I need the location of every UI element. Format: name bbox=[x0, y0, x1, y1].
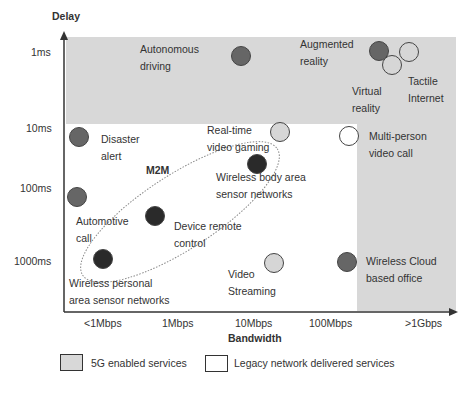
label-realtime-gaming-1: Real-time bbox=[207, 123, 252, 137]
dot-autonomous-driving bbox=[231, 46, 251, 66]
label-wban-1: Wireless body area bbox=[216, 170, 306, 184]
dot-video-streaming bbox=[264, 253, 284, 273]
y-axis-title: Delay bbox=[52, 9, 80, 23]
label-wpan-1: Wireless personal bbox=[69, 276, 152, 290]
dot-device-remote-control bbox=[145, 206, 165, 226]
label-automotive-call-1: Automotive bbox=[76, 214, 129, 228]
label-wpan-2: area sensor networks bbox=[69, 293, 169, 307]
label-augmented-reality-1: Augmented bbox=[300, 37, 354, 51]
dot-automotive-call bbox=[67, 187, 87, 207]
legend-label-legacy: Legacy network delivered services bbox=[234, 356, 395, 370]
label-cloud-office-1: Wireless Cloud bbox=[366, 254, 437, 268]
x-axis-title: Bandwidth bbox=[228, 331, 282, 345]
label-realtime-gaming-2: video gaming bbox=[207, 140, 269, 154]
label-multi-person-call-1: Multi-person bbox=[369, 129, 427, 143]
dot-tactile-internet bbox=[399, 42, 419, 62]
label-device-remote-control-2: control bbox=[174, 236, 206, 250]
label-tactile-internet-2: Internet bbox=[408, 91, 444, 105]
x-tick-lt1mbps: <1Mbps bbox=[84, 317, 122, 329]
y-tick-1ms: 1ms bbox=[31, 46, 51, 58]
dot-disaster-alert bbox=[69, 127, 89, 147]
y-tick-1000ms: 1000ms bbox=[14, 255, 51, 267]
y-tick-10ms: 10ms bbox=[26, 122, 52, 134]
legend-label-5g: 5G enabled services bbox=[91, 356, 187, 370]
label-automotive-call-2: call bbox=[76, 231, 92, 245]
label-video-streaming-2: Streaming bbox=[228, 284, 276, 298]
x-tick-10mbps: 10Mbps bbox=[235, 317, 272, 329]
dot-wpan bbox=[93, 249, 113, 269]
label-tactile-internet-1: Tactile bbox=[408, 74, 438, 88]
x-tick-100mbps: 100Mbps bbox=[309, 317, 352, 329]
x-tick-1mbps: 1Mbps bbox=[162, 317, 194, 329]
label-cloud-office-2: based office bbox=[366, 271, 422, 285]
label-autonomous-driving-2: driving bbox=[140, 59, 171, 73]
dot-multi-person-call bbox=[339, 126, 359, 146]
dot-cloud-office bbox=[337, 252, 357, 272]
label-virtual-reality-2: reality bbox=[352, 101, 380, 115]
dot-realtime-gaming bbox=[270, 122, 290, 142]
label-augmented-reality-2: reality bbox=[300, 54, 328, 68]
label-autonomous-driving-1: Autonomous bbox=[140, 42, 199, 56]
label-disaster-alert-2: alert bbox=[101, 149, 121, 163]
dot-virtual-reality bbox=[382, 55, 402, 75]
label-video-streaming-1: Video bbox=[228, 267, 255, 281]
legend-swatch-5g bbox=[60, 354, 83, 371]
legend-swatch-legacy bbox=[205, 355, 228, 372]
label-virtual-reality-1: Virtual bbox=[352, 84, 382, 98]
label-multi-person-call-2: video call bbox=[369, 146, 413, 160]
label-wban-2: sensor networks bbox=[216, 187, 292, 201]
label-m2m-group: M2M bbox=[146, 163, 169, 177]
x-tick-gt1gbps: >1Gbps bbox=[405, 317, 442, 329]
y-tick-100ms: 100ms bbox=[20, 182, 52, 194]
label-disaster-alert-1: Disaster bbox=[101, 132, 140, 146]
label-device-remote-control-1: Device remote bbox=[174, 219, 242, 233]
